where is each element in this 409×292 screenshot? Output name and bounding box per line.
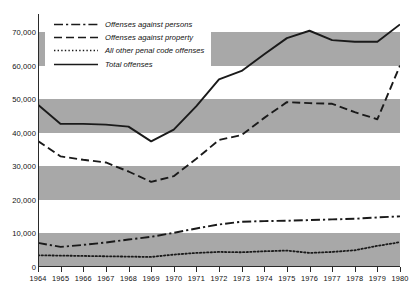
x-tick-label: 1980 [391, 274, 408, 283]
x-axis: 1964196519661967196819691970197119721973… [38, 267, 400, 292]
legend-label-all-other-penal-code-offenses: All other penal code offenses [105, 46, 204, 55]
x-tick [242, 267, 243, 272]
x-tick [106, 267, 107, 272]
x-tick-label: 1968 [120, 274, 137, 283]
y-tick-label: 50,000 [2, 95, 36, 104]
x-tick-label: 1965 [52, 274, 69, 283]
x-tick [151, 267, 152, 272]
legend-item-offenses-against-persons: Offenses against persons [45, 18, 211, 31]
y-tick-label: 30,000 [2, 162, 36, 171]
x-tick [38, 267, 39, 272]
x-tick-label: 1974 [256, 274, 273, 283]
x-tick-label: 1979 [369, 274, 386, 283]
y-axis: 010,00020,00030,00040,00050,00060,00070,… [0, 0, 36, 292]
x-tick [129, 267, 130, 272]
legend-item-offenses-against-property: Offenses against property [45, 31, 211, 44]
legend-item-total-offenses: Total offenses [45, 58, 211, 71]
y-tick-label: 70,000 [2, 28, 36, 37]
legend-swatch-solid-icon [54, 59, 98, 70]
x-tick-label: 1971 [188, 274, 205, 283]
x-tick-label: 1978 [346, 274, 363, 283]
chart-legend: Offenses against persons Offenses agains… [45, 15, 211, 72]
series-line [38, 216, 400, 246]
legend-label-total-offenses: Total offenses [105, 60, 153, 69]
legend-swatch-dashed-icon [54, 32, 98, 43]
x-tick [377, 267, 378, 272]
x-tick-label: 1967 [97, 274, 114, 283]
x-tick [287, 267, 288, 272]
y-tick-label: 60,000 [2, 61, 36, 70]
x-tick [174, 267, 175, 272]
x-tick-label: 1972 [210, 274, 227, 283]
x-tick-label: 1969 [143, 274, 160, 283]
x-tick-label: 1970 [165, 274, 182, 283]
legend-label-offenses-against-persons: Offenses against persons [105, 20, 192, 29]
x-tick-label: 1976 [301, 274, 318, 283]
x-tick [61, 267, 62, 272]
y-tick-label: 40,000 [2, 128, 36, 137]
legend-swatch-dash-dot-icon [54, 19, 98, 30]
x-tick [83, 267, 84, 272]
x-tick [310, 267, 311, 272]
legend-swatch-dotted-icon [54, 45, 98, 56]
x-tick-label: 1973 [233, 274, 250, 283]
legend-label-offenses-against-property: Offenses against property [105, 33, 193, 42]
legend-item-all-other-penal-code-offenses: All other penal code offenses [45, 44, 211, 57]
x-tick [332, 267, 333, 272]
x-tick [219, 267, 220, 272]
x-tick [264, 267, 265, 272]
y-tick-label: 10,000 [2, 229, 36, 238]
x-tick-label: 1975 [278, 274, 295, 283]
x-tick-label: 1964 [29, 274, 46, 283]
y-tick-label: 0 [2, 263, 36, 272]
x-tick-label: 1977 [324, 274, 341, 283]
x-tick-label: 1966 [75, 274, 92, 283]
x-tick [355, 267, 356, 272]
y-tick-label: 20,000 [2, 195, 36, 204]
x-tick [196, 267, 197, 272]
x-tick [400, 267, 401, 272]
